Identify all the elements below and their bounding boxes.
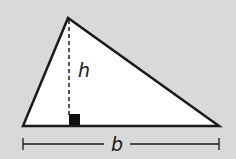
height-label: h — [78, 59, 90, 81]
diagram-canvas: h b — [0, 0, 236, 159]
triangle — [23, 18, 219, 126]
right-angle-marker — [69, 114, 80, 125]
base-label: b — [111, 133, 123, 155]
triangle-diagram: h b — [0, 0, 236, 159]
